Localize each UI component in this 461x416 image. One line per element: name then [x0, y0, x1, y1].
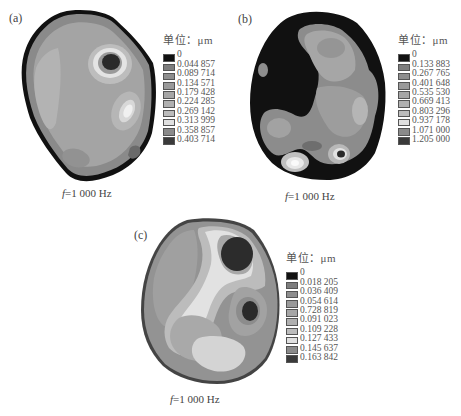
legend-swatch: [398, 54, 410, 62]
caption-a-text: =1 000 Hz: [65, 187, 112, 199]
legend-swatches-c: [286, 272, 298, 364]
legend-swatch: [398, 137, 410, 145]
legend-swatches-b: [398, 54, 410, 146]
legend-c: 单位：μm 0 0.018 205 0.036 409 0.054 614 0.…: [286, 254, 338, 364]
legend-swatch: [163, 100, 175, 108]
legend-swatch: [163, 119, 175, 127]
legend-swatch: [286, 337, 298, 345]
legend-swatch: [398, 100, 410, 108]
legend-swatch: [286, 300, 298, 308]
legend-swatch: [286, 272, 298, 280]
legend-swatch: [163, 128, 175, 136]
caption-b-text: =1 000 Hz: [288, 190, 335, 202]
legend-swatch: [286, 282, 298, 290]
caption-a: f=1 000 Hz: [62, 187, 112, 199]
legend-swatch: [286, 328, 298, 336]
legend-swatch: [398, 73, 410, 81]
legend-swatch: [398, 82, 410, 90]
legend-title-a: 单位：μm: [163, 36, 215, 45]
legend-swatch: [286, 318, 298, 326]
legend-swatch: [398, 110, 410, 118]
legend-title-b: 单位：μm: [398, 36, 450, 45]
legend-swatches-a: [163, 54, 175, 146]
legend-swatch: [286, 346, 298, 354]
legend-value: 0.163 842: [300, 353, 338, 362]
legend-swatch: [286, 309, 298, 317]
caption-b: f=1 000 Hz: [285, 190, 335, 202]
legend-swatch: [286, 355, 298, 363]
legend-b: 单位：μm 0 0.133 883 0.267 765 0.401 648 0.…: [398, 36, 450, 146]
caption-c: f=1 000 Hz: [170, 393, 220, 405]
legend-swatch: [163, 73, 175, 81]
legend-swatch: [163, 82, 175, 90]
legend-a: 单位：μm 0 0.044 857 0.089 714 0.134 571 0.…: [163, 36, 215, 146]
legend-swatch: [398, 91, 410, 99]
legend-swatch: [163, 54, 175, 62]
legend-swatch: [163, 110, 175, 118]
legend-swatch: [398, 64, 410, 72]
legend-title-c: 单位：μm: [286, 254, 338, 263]
legend-swatch: [163, 64, 175, 72]
legend-swatch: [163, 137, 175, 145]
legend-value: 1.205 000: [412, 135, 450, 144]
legend-value: 0.403 714: [177, 135, 215, 144]
legend-swatch: [398, 128, 410, 136]
contour-plot-a: [18, 8, 158, 183]
contour-plot-c: [139, 218, 281, 386]
contour-plot-b: [247, 8, 387, 183]
legend-swatch: [163, 91, 175, 99]
legend-swatch: [398, 119, 410, 127]
legend-swatch: [286, 291, 298, 299]
caption-c-text: =1 000 Hz: [173, 393, 220, 405]
